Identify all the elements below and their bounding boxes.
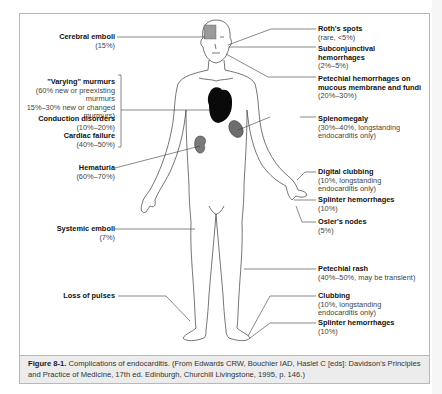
figure-caption: Figure 8-1. Complications of endocarditi… [19,355,430,384]
label-clubbing: Clubbing (10%, longstanding endocarditis… [318,292,381,318]
label-conduction-disorders: Conduction disorders (10%–20%) [38,115,115,132]
label-splenomegaly: Splenomegaly (30%–40%, longstanding endo… [318,115,400,141]
caption-label: Figure 8-1. [28,359,66,368]
label-oslers-nodes: Osler's nodes (5%) [318,218,367,235]
kidney-icon [195,136,206,153]
label-hematuria: Hematuria (60%–70%) [76,164,115,181]
spleen-icon [226,118,246,140]
label-petechial-rash: Petechial rash (40%–50%, may be transien… [318,265,415,282]
label-roths-spots: Roth's spots (rare, <5%) [318,25,362,42]
label-cardiac-failure: Cardiac failure (40%–50%) [64,132,115,149]
label-loss-of-pulses: Loss of pulses [63,292,115,301]
brain-region [204,25,216,39]
label-splinter-hemorrhages-hand: Splinter hemorrhages (10%) [318,196,394,213]
label-splinter-hemorrhages-foot: Splinter hemorrhages (10%) [318,319,394,336]
label-systemic-emboli: Systemic emboli (7%) [57,225,115,242]
label-petechial-hemorrhages: Petechial hemorrhages on mucous membrane… [318,75,421,101]
label-digital-clubbing: Digital clubbing (10%, longstanding endo… [318,168,381,194]
heart-icon [208,87,232,123]
label-cerebral-emboli: Cerebral emboli (15%) [59,33,115,50]
caption-text: Complications of endocarditis. (From Edw… [28,359,421,379]
page-margin [432,0,442,394]
label-subconjunctival-hemorrhages: Subconjunctival hemorrhages (2%–5%) [318,45,375,71]
leader-lines [115,29,316,338]
body-outline [141,20,306,341]
